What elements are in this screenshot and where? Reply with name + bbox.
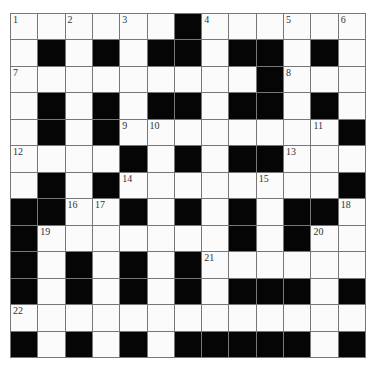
answer-square[interactable]: [229, 14, 255, 39]
answer-square[interactable]: [148, 252, 174, 277]
answer-square[interactable]: 2: [66, 14, 92, 39]
answer-square[interactable]: [202, 93, 228, 118]
answer-square[interactable]: 16: [66, 199, 92, 224]
answer-square[interactable]: [66, 93, 92, 118]
answer-square[interactable]: [311, 252, 337, 277]
answer-square[interactable]: 1: [11, 14, 37, 39]
answer-square[interactable]: [148, 199, 174, 224]
answer-square[interactable]: 20: [311, 226, 337, 251]
answer-square[interactable]: [339, 67, 365, 92]
answer-square[interactable]: [148, 173, 174, 198]
answer-square[interactable]: [175, 305, 201, 330]
answer-square[interactable]: 22: [11, 305, 37, 330]
answer-square[interactable]: 10: [148, 120, 174, 145]
answer-square[interactable]: [38, 146, 64, 171]
answer-square[interactable]: [93, 252, 119, 277]
answer-square[interactable]: [93, 226, 119, 251]
answer-square[interactable]: [339, 226, 365, 251]
answer-square[interactable]: [175, 226, 201, 251]
answer-square[interactable]: 15: [257, 173, 283, 198]
answer-square[interactable]: [202, 40, 228, 65]
answer-square[interactable]: [120, 67, 146, 92]
answer-square[interactable]: 14: [120, 173, 146, 198]
answer-square[interactable]: [339, 93, 365, 118]
answer-square[interactable]: [11, 93, 37, 118]
answer-square[interactable]: [202, 120, 228, 145]
answer-square[interactable]: [66, 146, 92, 171]
answer-square[interactable]: [311, 279, 337, 304]
answer-square[interactable]: [93, 14, 119, 39]
answer-square[interactable]: 18: [339, 199, 365, 224]
answer-square[interactable]: [38, 252, 64, 277]
answer-square[interactable]: [284, 305, 310, 330]
answer-square[interactable]: [284, 252, 310, 277]
answer-square[interactable]: [311, 67, 337, 92]
answer-square[interactable]: [257, 252, 283, 277]
answer-square[interactable]: [257, 226, 283, 251]
answer-square[interactable]: [120, 305, 146, 330]
answer-square[interactable]: [339, 146, 365, 171]
answer-square[interactable]: [148, 226, 174, 251]
answer-square[interactable]: [66, 173, 92, 198]
answer-square[interactable]: [66, 226, 92, 251]
answer-square[interactable]: [284, 173, 310, 198]
answer-square[interactable]: [202, 173, 228, 198]
answer-square[interactable]: [38, 279, 64, 304]
answer-square[interactable]: [284, 93, 310, 118]
answer-square[interactable]: [148, 332, 174, 357]
answer-square[interactable]: [202, 199, 228, 224]
answer-square[interactable]: [257, 14, 283, 39]
answer-square[interactable]: [229, 252, 255, 277]
answer-square[interactable]: 17: [93, 199, 119, 224]
answer-square[interactable]: [148, 67, 174, 92]
answer-square[interactable]: [38, 305, 64, 330]
answer-square[interactable]: [66, 120, 92, 145]
answer-square[interactable]: [38, 67, 64, 92]
answer-square[interactable]: [120, 226, 146, 251]
answer-square[interactable]: 6: [339, 14, 365, 39]
answer-square[interactable]: [148, 146, 174, 171]
answer-square[interactable]: [175, 173, 201, 198]
answer-square[interactable]: [229, 120, 255, 145]
answer-square[interactable]: [11, 173, 37, 198]
answer-square[interactable]: [93, 67, 119, 92]
answer-square[interactable]: 21: [202, 252, 228, 277]
answer-square[interactable]: [311, 305, 337, 330]
answer-square[interactable]: [202, 146, 228, 171]
answer-square[interactable]: [148, 305, 174, 330]
answer-square[interactable]: [284, 40, 310, 65]
answer-square[interactable]: [93, 146, 119, 171]
answer-square[interactable]: [93, 279, 119, 304]
answer-square[interactable]: [11, 120, 37, 145]
answer-square[interactable]: [66, 305, 92, 330]
answer-square[interactable]: [202, 226, 228, 251]
answer-square[interactable]: [148, 279, 174, 304]
answer-square[interactable]: [339, 40, 365, 65]
answer-square[interactable]: [257, 305, 283, 330]
answer-square[interactable]: [229, 173, 255, 198]
answer-square[interactable]: [257, 199, 283, 224]
answer-square[interactable]: 9: [120, 120, 146, 145]
answer-square[interactable]: [175, 67, 201, 92]
answer-square[interactable]: [257, 120, 283, 145]
answer-square[interactable]: 8: [284, 67, 310, 92]
answer-square[interactable]: [38, 14, 64, 39]
answer-square[interactable]: 13: [284, 146, 310, 171]
answer-square[interactable]: [284, 120, 310, 145]
answer-square[interactable]: [66, 40, 92, 65]
answer-square[interactable]: [93, 305, 119, 330]
answer-square[interactable]: [229, 67, 255, 92]
answer-square[interactable]: [11, 40, 37, 65]
answer-square[interactable]: 11: [311, 120, 337, 145]
answer-square[interactable]: 7: [11, 67, 37, 92]
answer-square[interactable]: 5: [284, 14, 310, 39]
answer-square[interactable]: [311, 14, 337, 39]
answer-square[interactable]: [66, 67, 92, 92]
answer-square[interactable]: [311, 332, 337, 357]
answer-square[interactable]: [120, 40, 146, 65]
answer-square[interactable]: [175, 120, 201, 145]
answer-square[interactable]: [202, 279, 228, 304]
answer-square[interactable]: 4: [202, 14, 228, 39]
answer-square[interactable]: 12: [11, 146, 37, 171]
answer-square[interactable]: [311, 146, 337, 171]
